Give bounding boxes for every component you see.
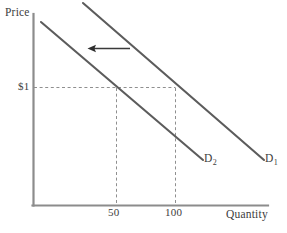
curve-label-d1: D1	[265, 153, 278, 167]
chart-canvas	[0, 0, 287, 233]
quantity-tick-label-100: 100	[165, 207, 182, 218]
leftward-shift-arrow	[88, 45, 131, 52]
guide-lines-group	[34, 88, 176, 206]
curve-label-d2-base: D	[204, 152, 213, 164]
curve-label-d1-subscript: 1	[274, 158, 279, 167]
demand-shift-figure: Price Quantity $1 50 100 D2 D1	[0, 0, 287, 233]
y-axis-label: Price	[5, 7, 30, 19]
curve-label-d1-base: D	[265, 152, 274, 164]
curve-label-d2: D2	[204, 153, 217, 167]
curve-label-d2-subscript: 2	[213, 158, 218, 167]
quantity-tick-label-50: 50	[108, 207, 119, 218]
axes-group	[33, 14, 269, 206]
price-tick-label: $1	[18, 81, 29, 92]
demand-curves-group	[41, 3, 264, 160]
x-axis-label: Quantity	[226, 209, 268, 221]
demand-curve-d2	[41, 22, 203, 160]
